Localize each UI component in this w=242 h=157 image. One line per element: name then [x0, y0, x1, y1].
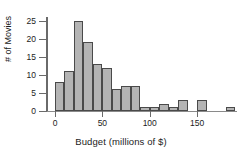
y-axis-line	[46, 17, 48, 112]
x-tick-label: 50	[98, 118, 107, 128]
histogram-bar	[112, 89, 121, 111]
histogram-bar	[140, 107, 149, 111]
y-tick-mark	[39, 57, 47, 58]
histogram-bar	[83, 42, 92, 111]
histogram-bar	[159, 104, 168, 111]
histogram-bar	[55, 82, 64, 111]
y-tick-label: 15	[18, 53, 36, 61]
histogram-bar	[64, 71, 73, 111]
x-tick-label: 100	[143, 118, 157, 128]
x-tick-mark	[150, 111, 151, 117]
y-tick-mark	[39, 75, 47, 76]
x-tick-mark	[102, 111, 103, 117]
histogram-bar	[197, 100, 206, 111]
y-tick-label: 10	[18, 71, 36, 79]
x-tick-label: 150	[190, 118, 204, 128]
histogram-bar	[178, 100, 187, 111]
y-tick-label: 20	[18, 35, 36, 43]
y-tick-mark	[39, 39, 47, 40]
histogram-bar	[226, 107, 235, 111]
y-tick-label: 5	[18, 89, 36, 97]
y-axis-title: # of Movies	[3, 3, 13, 75]
plot-area	[55, 17, 235, 111]
y-tick-mark	[39, 111, 47, 112]
x-axis-title: Budget (millions of $)	[0, 136, 242, 147]
histogram-bar	[131, 86, 140, 111]
histogram-bar	[121, 86, 130, 111]
x-axis-line	[47, 111, 237, 112]
histogram-bar	[150, 107, 159, 111]
histogram-bar	[74, 21, 83, 111]
histogram-bar	[169, 107, 178, 111]
x-tick-label: 0	[53, 118, 58, 128]
histogram-bar	[102, 68, 111, 111]
x-tick-mark	[55, 111, 56, 117]
y-tick-label: 25	[18, 17, 36, 25]
histogram-bar	[93, 64, 102, 111]
x-tick-mark	[197, 111, 198, 117]
y-tick-mark	[39, 21, 47, 22]
histogram-figure: # of Movies 0510152025 050100150 Budget …	[0, 0, 242, 157]
y-tick-label: 0	[18, 107, 36, 115]
y-tick-mark	[39, 93, 47, 94]
